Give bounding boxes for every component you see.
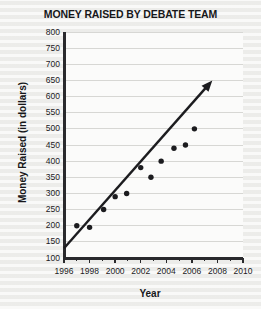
data-point: [112, 194, 117, 199]
data-point: [148, 175, 153, 180]
data-point: [183, 142, 188, 147]
data-point: [158, 158, 163, 163]
data-point: [87, 225, 92, 230]
data-point: [138, 165, 143, 170]
data-point: [171, 146, 176, 151]
chart-figure: MONEY RAISED BY DEBATE TEAM Money Raised…: [0, 0, 261, 309]
plot-area: [0, 0, 261, 309]
data-point: [192, 126, 197, 131]
data-point: [101, 207, 106, 212]
data-point: [74, 223, 79, 228]
data-point: [124, 191, 129, 196]
